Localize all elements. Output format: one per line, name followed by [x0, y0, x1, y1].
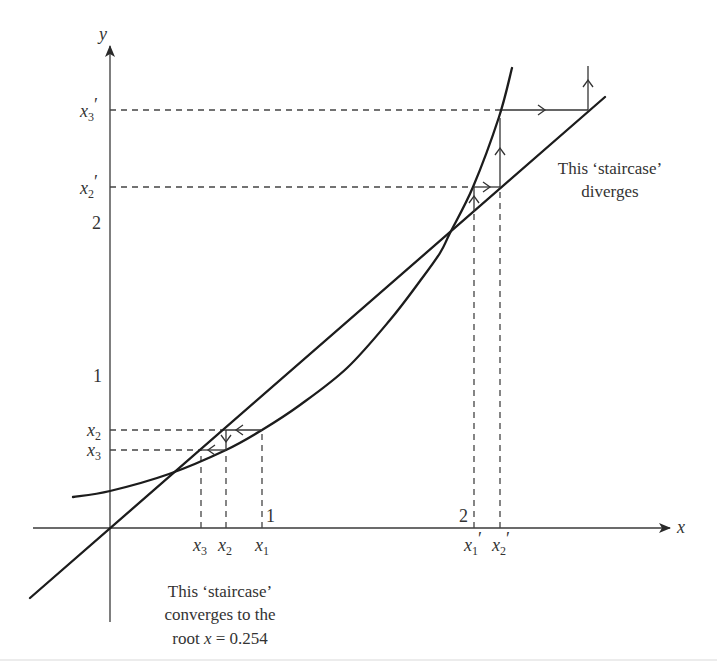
label-var: x — [463, 535, 472, 555]
x-label-x3: x3 — [192, 535, 207, 558]
annotation-converges-line1: This ‘staircase’ — [168, 582, 272, 601]
dashed-guides — [110, 110, 502, 528]
x-label-x1-prime: x1′ — [463, 529, 482, 558]
label-subscript: 2 — [226, 544, 232, 558]
y-tick-label-1: 1 — [93, 366, 102, 386]
label-prime: ′ — [94, 172, 98, 192]
y-tick-label-2: 2 — [92, 213, 101, 233]
annotation-diverges-line2: diverges — [581, 182, 638, 201]
y-axis-label: y — [97, 24, 107, 44]
label-var: x — [86, 440, 95, 460]
x-axis-labels: 1 2 x3 x2 x1 x1′ x2′ — [192, 506, 510, 558]
label-var: x — [79, 178, 88, 198]
annotation-converges-line3: root x = 0.254 — [172, 629, 268, 648]
y-label-x2-prime: x2′ — [79, 172, 98, 201]
label-var: x — [254, 535, 263, 555]
label-subscript: 1 — [263, 544, 269, 558]
label-var: x — [491, 535, 500, 555]
annotation-diverges-line1: This ‘staircase’ — [558, 159, 662, 178]
annotation-converges: This ‘staircase’ converges to the root x… — [164, 582, 275, 648]
staircase-iteration-diagram: x y x3′ x2′ — [0, 0, 717, 668]
label-subscript: 3 — [201, 544, 207, 558]
annotation-converges-line2: converges to the — [164, 605, 275, 624]
label-prime: ′ — [506, 529, 510, 549]
x-axis-label: x — [676, 517, 685, 537]
label-subscript: 2 — [95, 429, 101, 443]
x-label-x2: x2 — [217, 535, 232, 558]
label-var: x — [86, 420, 95, 440]
root-prefix: root — [172, 629, 204, 648]
label-prime: ′ — [94, 95, 98, 115]
label-var: x — [192, 535, 201, 555]
y-axis-labels: x3′ x2′ 2 1 x2 x3 — [79, 95, 102, 463]
x-tick-label-1: 1 — [266, 506, 275, 526]
y-label-x3: x3 — [86, 440, 101, 463]
label-var: x — [79, 101, 88, 121]
x-label-x1: x1 — [254, 535, 269, 558]
line-y-equals-x — [30, 97, 605, 598]
label-subscript: 3 — [95, 449, 101, 463]
annotation-diverges: This ‘staircase’ diverges — [558, 159, 662, 201]
root-value: = 0.254 — [211, 629, 268, 648]
label-prime: ′ — [478, 529, 482, 549]
y-label-x3-prime: x3′ — [79, 95, 98, 124]
x-label-x2-prime: x2′ — [491, 529, 510, 558]
curve-g-of-x — [73, 68, 512, 497]
x-tick-label-2: 2 — [459, 506, 468, 526]
diverging-staircase — [469, 66, 593, 212]
label-var: x — [217, 535, 226, 555]
